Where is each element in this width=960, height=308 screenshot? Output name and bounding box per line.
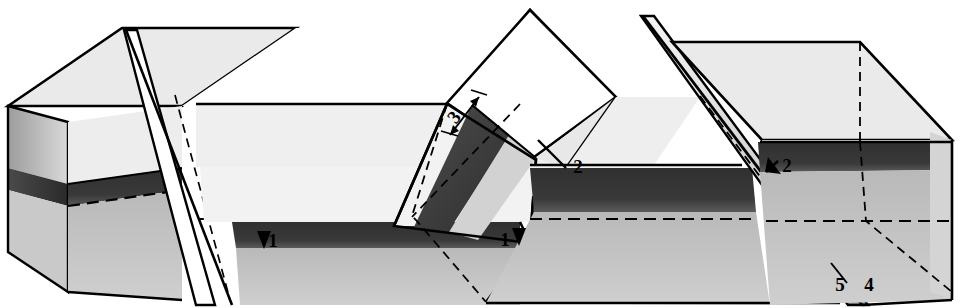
right-block-top-surface — [672, 42, 952, 140]
right-center-front-marker-bed — [530, 168, 756, 212]
label-1-center: 1 — [500, 229, 510, 250]
label-2-center: 2 — [573, 156, 583, 177]
middle-block-front-lower-unit — [236, 248, 520, 305]
left-block-end-lower-unit — [8, 190, 68, 292]
label-2-right: 2 — [782, 155, 792, 176]
right-block-front-lower-unit — [760, 170, 952, 305]
label-5-fault-trace: 5 — [835, 274, 845, 295]
left-block-front-lower-unit — [68, 190, 182, 300]
right-center-front-lower-unit — [486, 212, 770, 305]
block-diagram-figure: 1 1 2 2 3 5 4 — [0, 0, 960, 308]
block-diagram-canvas: 1 1 2 2 3 5 4 — [0, 0, 960, 308]
label-1-left: 1 — [268, 230, 278, 251]
right-block-end-face — [930, 132, 952, 300]
label-4-block-edge: 4 — [864, 274, 874, 295]
